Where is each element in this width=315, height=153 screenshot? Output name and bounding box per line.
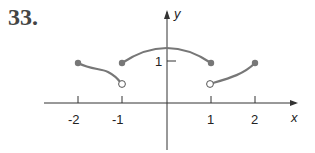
right-curve bbox=[213, 63, 255, 83]
closed-endpoint bbox=[208, 60, 214, 66]
closed-endpoint bbox=[252, 60, 258, 66]
y-tick-label: 1 bbox=[155, 54, 162, 69]
piecewise-graph: -2 -1 1 2 1 x y bbox=[0, 0, 315, 153]
y-axis-label: y bbox=[173, 6, 182, 21]
y-axis-arrow-icon bbox=[164, 10, 170, 19]
figure: 33. -2 -1 1 2 1 x y bbox=[0, 0, 315, 153]
closed-endpoint bbox=[119, 60, 125, 66]
x-axis-arrow-icon bbox=[290, 100, 298, 106]
x-tick-label: -2 bbox=[68, 112, 80, 127]
x-axis-label: x bbox=[290, 110, 298, 125]
open-endpoint bbox=[119, 81, 126, 88]
x-tick-label: 1 bbox=[207, 112, 214, 127]
closed-endpoint bbox=[75, 60, 81, 66]
left-curve bbox=[78, 63, 121, 83]
open-endpoint bbox=[207, 81, 214, 88]
x-tick-label: -1 bbox=[112, 112, 124, 127]
x-tick-label: 2 bbox=[251, 112, 258, 127]
